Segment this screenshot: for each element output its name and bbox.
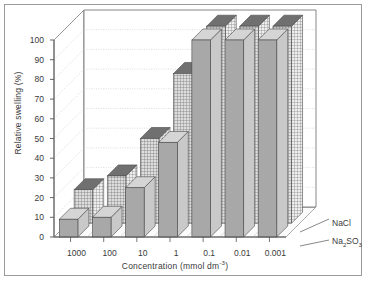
chart-3d-bar: Relative swelling (%) Concentration (mmo…	[0, 0, 368, 282]
legend-item-na2so3: Na2SO3	[332, 236, 362, 248]
legend-label-nacl: NaCl	[332, 218, 351, 228]
chart-canvas	[0, 0, 368, 282]
legend-label-na2so3: Na2SO3	[332, 236, 362, 246]
legend-item-nacl: NaCl	[332, 218, 351, 228]
